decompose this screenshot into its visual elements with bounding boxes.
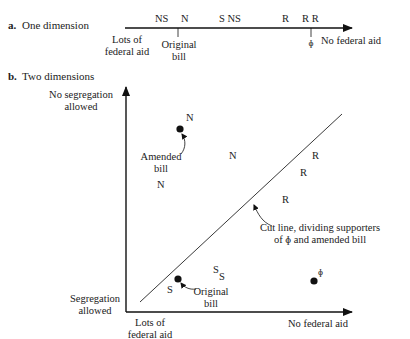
status-quo-label: ɸ	[318, 267, 323, 277]
amended-bill-label-1: Amended	[141, 151, 183, 162]
point-n-1: N	[186, 112, 194, 123]
original-bill-label-2: bill	[204, 298, 218, 309]
cut-line-label-2: of ɸ and amended bill	[274, 234, 366, 245]
y-top-label-1: No segregation	[49, 89, 114, 100]
panel-a-letter: a.	[8, 19, 17, 31]
point-r-2: R	[300, 167, 307, 178]
panel-a-title: One dimension	[22, 19, 89, 31]
one-dim-left-label-1: Lots of	[112, 34, 143, 45]
x-left-label-2: federal aid	[128, 329, 173, 339]
legislator-r-1: R	[282, 13, 289, 24]
spatial-voting-diagram: a. One dimension NS N S NS R R R Lots of…	[0, 0, 410, 339]
legislator-n: N	[181, 13, 189, 24]
amended-bill-label-2: bill	[154, 163, 168, 174]
panel-b-two-dimensions: b. Two dimensions No segregation allowed…	[8, 70, 380, 339]
point-n-2: N	[157, 179, 165, 190]
point-r-1: R	[312, 150, 319, 161]
status-quo-dot	[310, 277, 317, 284]
one-dim-original-bill-2: bill	[172, 51, 186, 62]
panel-b-title: Two dimensions	[22, 70, 94, 82]
point-r-3: R	[282, 194, 289, 205]
point-s-3: S	[219, 271, 225, 282]
one-dim-original-bill-1: Original	[162, 39, 197, 50]
x-right-label: No federal aid	[288, 318, 349, 329]
x-left-label-1: Lots of	[135, 317, 166, 328]
amended-bill-dot	[176, 125, 183, 132]
point-s-1: S	[167, 284, 173, 295]
y-bottom-label-2: allowed	[78, 305, 112, 316]
y-top-label-2: allowed	[64, 101, 98, 112]
legislator-ns-1: NS	[155, 13, 169, 24]
panel-b-letter: b.	[8, 70, 17, 82]
point-n-3: N	[229, 150, 237, 161]
amended-bill-pointer-arrow	[181, 134, 185, 154]
original-bill-label-1: Original	[194, 286, 229, 297]
one-dim-left-label-2: federal aid	[105, 46, 150, 57]
y-bottom-label-1: Segregation	[70, 293, 121, 304]
cut-line	[140, 114, 342, 302]
cut-line-label-1: Cut line, dividing supporters	[260, 222, 380, 233]
one-dim-right-label: No federal aid	[321, 35, 382, 46]
legislator-r-r: R R	[302, 13, 319, 24]
original-bill-dot	[174, 275, 181, 282]
one-dim-status-quo-symbol: ɸ	[309, 38, 314, 48]
legislator-s-ns: S NS	[219, 13, 241, 24]
panel-a-one-dimension: a. One dimension NS N S NS R R R Lots of…	[8, 13, 382, 62]
